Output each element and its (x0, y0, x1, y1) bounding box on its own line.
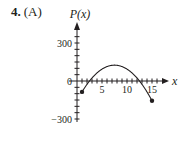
x-axis-label: x (171, 74, 178, 88)
endpoint-dot (150, 99, 154, 103)
y-axis: 3000−300 (51, 22, 80, 125)
x-axis-arrow-icon (162, 78, 169, 84)
x-tick-label: 5 (100, 84, 105, 95)
y-axis-label: P(x) (69, 7, 91, 21)
endpoint-dot (80, 90, 84, 94)
y-tick-label: 300 (57, 38, 72, 49)
curve (80, 65, 154, 103)
y-axis-arrow-icon (74, 22, 80, 30)
profit-chart: 3000−300 51015 P(x) x (0, 0, 184, 143)
x-tick-label: 10 (122, 84, 132, 95)
x-tick-label: 15 (147, 84, 157, 95)
y-tick-label: −300 (51, 114, 72, 125)
